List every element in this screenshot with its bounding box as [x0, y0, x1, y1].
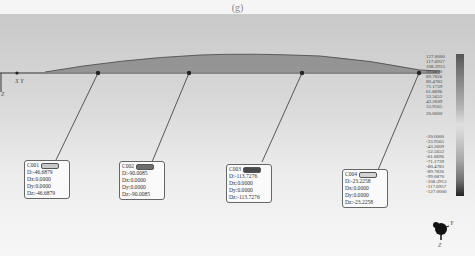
color-swatch	[243, 167, 261, 173]
probe-dy: Dy:0.0000	[229, 187, 269, 194]
probe-dx: Dx:0.0000	[122, 177, 162, 184]
global-z-label: Z	[1, 91, 4, 97]
probe-d: D:-113.7276	[229, 173, 269, 180]
beam-model	[0, 14, 475, 256]
probe-dy: Dy:0.0000	[122, 184, 162, 191]
probe-dz: Dz:-23.2258	[345, 199, 385, 206]
probe-id: C004	[345, 171, 357, 178]
probe-id: C001	[27, 162, 39, 169]
probe-d: D:-90.0085	[122, 170, 162, 177]
probe-d: D:-23.2258	[345, 178, 385, 185]
probe-dz: Dz:-113.7276	[229, 194, 269, 201]
legend-color-bar	[456, 54, 464, 196]
probe-id: C002	[122, 163, 134, 170]
probe-id: C003	[229, 166, 241, 173]
probe-dx: Dx:0.0000	[345, 185, 385, 192]
probe-dy: Dy:0.0000	[27, 183, 67, 190]
probe-d: D:-46.6879	[27, 169, 67, 176]
model-viewport[interactable]: X Y Z C001 D:-46.6879 Dx:0.0000 Dy:0.000…	[0, 14, 475, 256]
probe-dz: Dz:-90.0085	[122, 191, 162, 198]
probe-dx: Dx:0.0000	[229, 180, 269, 187]
triad-z-label: Z	[438, 242, 441, 248]
probe-dz: Dz:-46.6879	[27, 190, 67, 197]
triad-y-label: Y	[450, 220, 453, 226]
color-swatch	[136, 164, 154, 170]
probe-c001[interactable]: C001 D:-46.6879 Dx:0.0000 Dy:0.0000 Dz:-…	[24, 160, 70, 199]
figure-caption: (g)	[0, 2, 475, 13]
global-xy-label: X Y	[15, 78, 24, 84]
probe-c004[interactable]: C004 D:-23.2258 Dx:0.0000 Dy:0.0000 Dz:-…	[342, 169, 388, 208]
probe-dy: Dy:0.0000	[345, 192, 385, 199]
probe-c003[interactable]: C003 D:-113.7276 Dx:0.0000 Dy:0.0000 Dz:…	[226, 164, 272, 203]
color-swatch	[41, 163, 59, 169]
color-swatch	[359, 172, 377, 178]
probe-c002[interactable]: C002 D:-90.0085 Dx:0.0000 Dy:0.0000 Dz:-…	[119, 161, 165, 200]
probe-dx: Dx:0.0000	[27, 176, 67, 183]
